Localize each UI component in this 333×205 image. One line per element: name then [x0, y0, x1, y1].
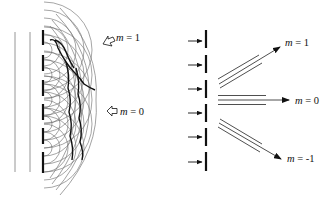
- label-order-plus1: m = 1: [285, 37, 309, 48]
- left-panel: m = 1 m = 0: [0, 2, 144, 195]
- order-0-rays: [218, 96, 289, 105]
- label-order-minus1: m = -1: [287, 153, 315, 164]
- hollow-arrow-icon: [103, 36, 115, 46]
- svg-text:m = 0: m = 0: [120, 106, 144, 117]
- order-plus1-rays: [218, 47, 280, 88]
- diffraction-grating-diagram: m = 1 m = 0: [0, 0, 333, 205]
- outer-wavefront-arcs: [50, 8, 96, 195]
- label-order-1: m = 1: [103, 32, 140, 46]
- incident-arrows: [188, 41, 202, 162]
- label-order-0: m = 0: [107, 106, 144, 117]
- order-minus1-rays: [218, 119, 281, 159]
- hollow-arrow-icon: [107, 106, 117, 116]
- svg-text:m = 1: m = 1: [116, 32, 140, 43]
- right-panel: m = 1 m = 0 m = -1: [188, 30, 319, 171]
- label-order-0-right: m = 0: [295, 95, 319, 106]
